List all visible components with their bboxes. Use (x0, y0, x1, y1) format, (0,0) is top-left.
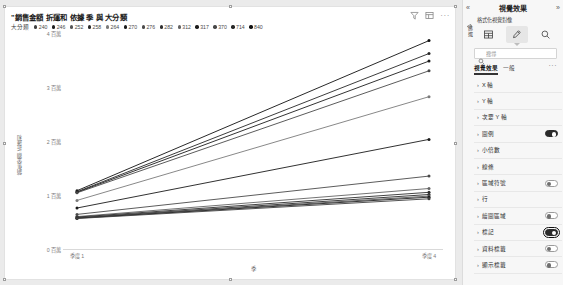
data-point-marker[interactable] (76, 207, 79, 210)
property-toggle[interactable] (545, 180, 558, 187)
legend-item[interactable]: 840 (249, 24, 262, 30)
format-visual-tab[interactable] (506, 26, 528, 43)
search-row[interactable] (474, 48, 557, 59)
chevron-right-icon[interactable]: › (474, 262, 482, 268)
collapse-left-icon[interactable]: « (463, 4, 473, 11)
data-point-marker[interactable] (428, 52, 431, 55)
chevron-right-icon[interactable]: › (474, 196, 482, 202)
build-visual-tab[interactable] (477, 26, 499, 43)
search-box[interactable] (474, 48, 557, 59)
data-point-marker[interactable] (76, 199, 79, 202)
format-property-row[interactable]: ›行 (474, 192, 562, 208)
format-property-row[interactable]: ›次要 Y 軸 (474, 110, 562, 126)
format-subtabs[interactable]: 視覺效果 一般 ··· (474, 63, 557, 74)
visualizations-pane[interactable]: « 視覺效果 » 格式化視覺對像 篩選 (462, 0, 563, 285)
legend-item[interactable]: 714 (231, 24, 244, 30)
chevron-right-icon[interactable]: › (474, 147, 482, 153)
chevron-right-icon[interactable]: › (474, 131, 482, 137)
data-point-marker[interactable] (76, 217, 79, 220)
chevron-right-icon[interactable]: › (474, 98, 482, 104)
legend-item[interactable]: 282 (160, 24, 173, 30)
property-toggle[interactable] (545, 130, 558, 137)
line-series[interactable] (77, 197, 429, 218)
data-point-marker[interactable] (428, 175, 431, 178)
data-point-marker[interactable] (428, 197, 431, 200)
line-series[interactable] (77, 41, 429, 191)
format-property-row[interactable]: ›顯示標籤 (474, 257, 562, 273)
analytics-tab[interactable] (535, 26, 557, 43)
report-canvas[interactable]: "銷售金額 折運和 依據 季 與 大分類 ··· 大分類 (0, 0, 462, 285)
line-chart-visual[interactable]: "銷售金額 折運和 依據 季 與 大分類 ··· 大分類 (4, 6, 456, 280)
line-series[interactable] (77, 71, 429, 193)
legend-item[interactable]: 312 (178, 24, 191, 30)
line-series[interactable] (77, 97, 429, 201)
resize-handle-e[interactable] (454, 142, 457, 145)
legend-item[interactable]: 276 (142, 24, 155, 30)
legend-item[interactable]: 270 (124, 24, 137, 30)
pane-tab-strip[interactable] (474, 24, 560, 44)
pin-icon[interactable] (466, 16, 474, 23)
legend-item[interactable]: 317 (195, 24, 208, 30)
format-property-label: 小倍數 (482, 146, 558, 154)
format-property-row[interactable]: ›Y 軸 (474, 93, 562, 109)
legend-item-label: 317 (200, 24, 209, 30)
format-property-list[interactable]: ›X 軸›Y 軸›次要 Y 軸›圖例›小倍數›線條›區域符號›行›繪圖區域›標記… (474, 77, 562, 274)
format-property-row[interactable]: ›繪圖區域 (474, 208, 562, 224)
legend-item[interactable]: 370 (213, 24, 226, 30)
subtab-general[interactable]: 一般 (503, 64, 515, 74)
legend-item[interactable]: 240 (34, 24, 47, 30)
legend-item[interactable]: 258 (88, 24, 101, 30)
resize-handle-nw[interactable] (3, 5, 6, 8)
chevron-right-icon[interactable]: › (474, 246, 482, 252)
subtab-more-icon[interactable]: ··· (549, 64, 558, 67)
format-property-row[interactable]: ›區域符號 (474, 175, 562, 191)
property-toggle[interactable] (545, 245, 558, 252)
filter-icon[interactable] (410, 11, 419, 20)
format-property-row[interactable]: ›X 軸 (474, 77, 562, 93)
resize-handle-n[interactable] (229, 5, 232, 8)
legend-item[interactable]: 264 (106, 24, 119, 30)
subtab-visual[interactable]: 視覺效果 (474, 64, 498, 74)
line-series[interactable] (77, 61, 429, 192)
plot-area[interactable] (63, 33, 443, 249)
data-point-marker[interactable] (428, 60, 431, 63)
data-point-marker[interactable] (428, 138, 431, 141)
chevron-right-icon[interactable]: › (474, 229, 482, 235)
property-toggle[interactable] (545, 212, 558, 219)
more-options-icon[interactable]: ··· (440, 14, 450, 18)
property-toggle[interactable] (545, 229, 558, 236)
chevron-right-icon[interactable]: › (474, 164, 482, 170)
filters-rail-label[interactable]: 篩選 (464, 26, 472, 37)
data-point-marker[interactable] (76, 191, 79, 194)
data-point-marker[interactable] (428, 95, 431, 98)
resize-handle-w[interactable] (3, 142, 6, 145)
format-property-label: 線條 (482, 163, 558, 171)
format-property-row[interactable]: ›線條 (474, 159, 562, 175)
resize-handle-ne[interactable] (454, 5, 457, 8)
property-toggle[interactable] (545, 261, 558, 268)
data-point-marker[interactable] (428, 39, 431, 42)
resize-handle-sw[interactable] (3, 278, 6, 281)
data-point-marker[interactable] (428, 69, 431, 72)
legend-item-label: 270 (128, 24, 137, 30)
format-property-row[interactable]: ›資料標籤 (474, 241, 562, 257)
data-point-marker[interactable] (428, 187, 431, 190)
line-series[interactable] (77, 192, 429, 217)
focus-mode-icon[interactable] (425, 11, 434, 20)
legend-item-label: 282 (164, 24, 173, 30)
format-property-row[interactable]: ›標記 (474, 225, 562, 241)
line-series[interactable] (77, 54, 429, 192)
format-property-row[interactable]: ›小倍數 (474, 143, 562, 159)
chevron-right-icon[interactable]: › (474, 180, 482, 186)
resize-handle-s[interactable] (229, 278, 232, 281)
chevron-right-icon[interactable]: › (474, 213, 482, 219)
collapse-right-icon[interactable]: » (553, 4, 563, 11)
legend-item[interactable]: 252 (70, 24, 83, 30)
search-input[interactable] (486, 51, 556, 57)
resize-handle-se[interactable] (454, 278, 457, 281)
format-property-row[interactable]: ›圖例 (474, 126, 562, 142)
visual-header-actions[interactable]: ··· (410, 11, 450, 20)
line-series[interactable] (77, 189, 429, 217)
chevron-right-icon[interactable]: › (474, 82, 482, 88)
chevron-right-icon[interactable]: › (474, 114, 482, 120)
